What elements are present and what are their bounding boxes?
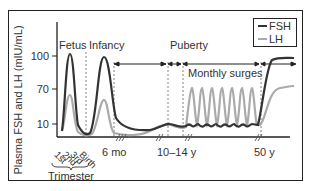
x-label-10-14y: 10–14 y [157,146,197,158]
trimester-label: Trimester [48,170,94,182]
y-tick-label-70: 70 [37,83,49,95]
stage-label-monthly-surges: Monthly surges [188,67,263,79]
stage-label-fetus: Fetus [59,39,87,51]
stage-label-infancy: Infancy [89,39,125,51]
x-label-50y: 50 y [254,146,275,158]
y-tick-label-10: 10 [37,118,49,130]
legend: FSH LH [254,19,297,47]
y-tick-label-100: 100 [31,50,49,62]
chart-svg: Plasma FSH and LH (mIU/mL) 100 70 10 Fet… [0,0,310,191]
x-label-6mo: 6 mo [102,146,126,158]
stage-label-puberty: Puberty [170,39,208,51]
hormone-chart: Plasma FSH and LH (mIU/mL) 100 70 10 Fet… [0,0,310,191]
legend-lh-label: LH [269,33,283,45]
legend-fsh-label: FSH [269,20,291,32]
y-axis-label: Plasma FSH and LH (mIU/mL) [12,25,24,174]
